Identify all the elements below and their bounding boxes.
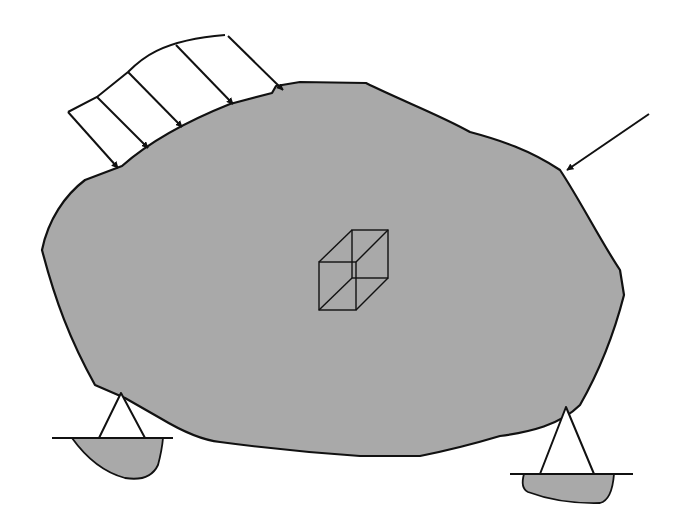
distributed-load-arrow bbox=[68, 112, 118, 168]
distributed-load-arrow bbox=[176, 45, 233, 104]
body-load-diagram bbox=[0, 0, 681, 524]
diagram-canvas bbox=[0, 0, 681, 524]
point-load-arrow bbox=[567, 114, 649, 170]
distributed-load-envelope bbox=[68, 35, 225, 112]
deformable-body bbox=[42, 82, 624, 456]
left-ground-hatch bbox=[72, 438, 163, 479]
distributed-load-arrow bbox=[97, 97, 148, 148]
right-ground-hatch bbox=[523, 474, 614, 503]
distributed-load-arrow bbox=[128, 72, 182, 127]
distributed-load-arrow bbox=[228, 36, 283, 90]
